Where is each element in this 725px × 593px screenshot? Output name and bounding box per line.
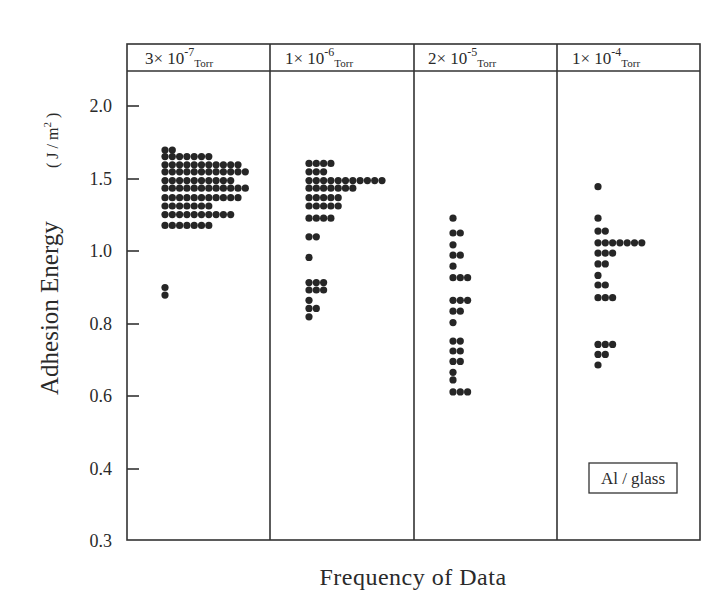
- y-axis-tick-labels: 2.0 1.5 1.0 0.8 0.6 0.4 0.3: [90, 96, 113, 551]
- data-point: [169, 222, 176, 229]
- data-point: [205, 211, 212, 218]
- data-point: [176, 168, 183, 175]
- data-point: [234, 185, 241, 192]
- data-point: [320, 286, 327, 293]
- data-point: [161, 153, 168, 160]
- data-point: [183, 202, 190, 209]
- y-axis-title: Adhesion Energy: [36, 221, 63, 395]
- data-point: [234, 194, 241, 201]
- data-point: [609, 341, 616, 348]
- panel-headers: 3× 10-7Torr 1× 10-6Torr 2× 10-5Torr 1× 1…: [145, 45, 640, 69]
- data-point: [169, 202, 176, 209]
- data-point: [594, 250, 601, 257]
- data-point: [449, 338, 456, 345]
- data-point: [594, 341, 601, 348]
- data-point: [234, 161, 241, 168]
- data-point: [313, 215, 320, 222]
- data-point: [305, 254, 312, 261]
- data-point: [320, 194, 327, 201]
- data-point: [320, 279, 327, 286]
- annotation-text: Al / glass: [601, 469, 665, 488]
- data-point: [227, 161, 234, 168]
- data-point: [313, 279, 320, 286]
- data-point: [205, 202, 212, 209]
- data-point: [305, 297, 312, 304]
- data-point: [449, 308, 456, 315]
- data-point: [313, 160, 320, 167]
- data-point: [594, 228, 601, 235]
- data-point: [205, 153, 212, 160]
- data-point: [457, 274, 464, 281]
- data-point: [594, 294, 601, 301]
- data-point: [198, 194, 205, 201]
- data-point: [234, 168, 241, 175]
- data-point: [602, 294, 609, 301]
- data-point: [242, 168, 249, 175]
- data-point: [327, 215, 334, 222]
- data-point: [449, 274, 456, 281]
- data-point: [198, 177, 205, 184]
- data-point: [305, 313, 312, 320]
- data-point: [609, 294, 616, 301]
- data-point: [449, 347, 456, 354]
- data-point: [357, 177, 364, 184]
- data-point: [191, 168, 198, 175]
- data-point: [327, 194, 334, 201]
- data-point: [176, 161, 183, 168]
- ytick-label: 0.3: [90, 531, 113, 551]
- data-point: [183, 161, 190, 168]
- data-point: [335, 177, 342, 184]
- material-annotation: Al / glass: [589, 463, 677, 493]
- data-point: [313, 177, 320, 184]
- data-point: [327, 160, 334, 167]
- data-point: [220, 168, 227, 175]
- data-point: [191, 202, 198, 209]
- data-point: [335, 194, 342, 201]
- data-point: [594, 183, 601, 190]
- data-point: [594, 272, 601, 279]
- data-point: [161, 202, 168, 209]
- data-point: [449, 263, 456, 270]
- data-point: [161, 147, 168, 154]
- data-point: [205, 161, 212, 168]
- data-point: [457, 338, 464, 345]
- data-point: [305, 233, 312, 240]
- y-axis-ticks: [127, 106, 139, 469]
- data-point: [320, 185, 327, 192]
- data-point: [198, 153, 205, 160]
- data-point: [305, 215, 312, 222]
- data-point: [327, 202, 334, 209]
- data-point: [594, 239, 601, 246]
- data-point: [176, 185, 183, 192]
- data-point: [213, 194, 220, 201]
- data-point: [305, 279, 312, 286]
- data-point: [169, 211, 176, 218]
- data-point: [449, 319, 456, 326]
- data-point: [191, 222, 198, 229]
- data-point: [183, 222, 190, 229]
- ytick-label: 1.5: [90, 169, 113, 189]
- ytick-label: 0.8: [90, 314, 113, 334]
- data-point: [449, 388, 456, 395]
- data-point: [449, 241, 456, 248]
- data-point: [227, 168, 234, 175]
- data-point: [161, 177, 168, 184]
- data-point: [169, 147, 176, 154]
- data-point: [191, 153, 198, 160]
- data-point: [191, 211, 198, 218]
- data-point: [464, 274, 471, 281]
- data-point: [305, 286, 312, 293]
- data-point: [349, 177, 356, 184]
- data-point: [609, 239, 616, 246]
- data-point: [313, 233, 320, 240]
- panel-header-4: 1× 10-4Torr: [572, 45, 640, 69]
- data-point: [205, 168, 212, 175]
- data-point: [176, 222, 183, 229]
- data-point: [349, 185, 356, 192]
- data-point: [313, 194, 320, 201]
- data-point: [457, 229, 464, 236]
- data-dots: [161, 147, 645, 396]
- data-point: [457, 347, 464, 354]
- data-point: [176, 177, 183, 184]
- data-point: [327, 185, 334, 192]
